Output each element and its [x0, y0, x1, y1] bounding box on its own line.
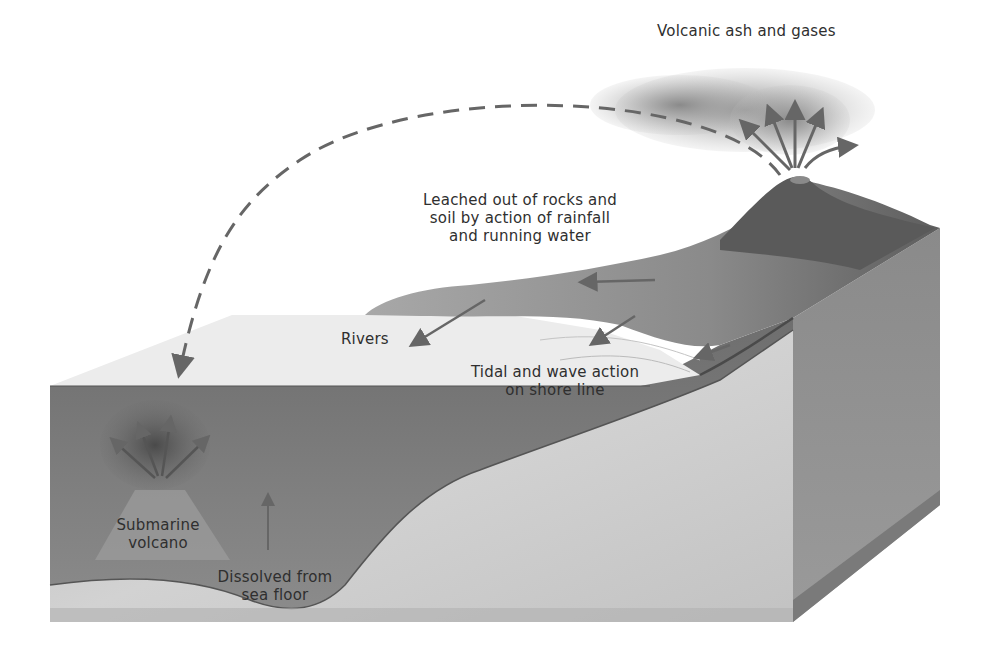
ocean-sources-diagram: Volcanic ash and gases Leached out of ro… [0, 0, 989, 659]
block-diagram-graphic [0, 0, 989, 659]
label-leached-line2: soil by action of rainfall [400, 209, 640, 227]
label-submarine-line1: Submarine [93, 516, 223, 534]
label-dissolved-line2: sea floor [200, 586, 350, 604]
label-rivers: Rivers [341, 330, 389, 348]
label-dissolved-line1: Dissolved from [200, 568, 350, 586]
label-tidal-line1: Tidal and wave action [455, 363, 655, 381]
label-leached-line1: Leached out of rocks and [400, 191, 640, 209]
label-tidal: Tidal and wave action on shore line [455, 363, 655, 399]
label-volcanic-ash: Volcanic ash and gases [657, 22, 836, 40]
label-dissolved: Dissolved from sea floor [200, 568, 350, 604]
label-submarine-volcano: Submarine volcano [93, 516, 223, 552]
label-leached: Leached out of rocks and soil by action … [400, 191, 640, 245]
label-submarine-line2: volcano [93, 534, 223, 552]
label-tidal-line2: on shore line [455, 381, 655, 399]
label-leached-line3: and running water [400, 227, 640, 245]
